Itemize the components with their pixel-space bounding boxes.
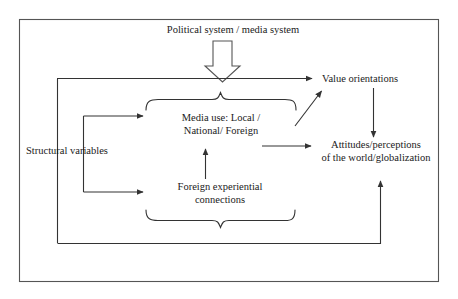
node-value-orientations: Value orientations bbox=[322, 73, 440, 86]
node-political-system-media-system: Political system / media system bbox=[148, 24, 318, 37]
political-system-block-arrow-icon bbox=[205, 41, 240, 82]
upper-brace bbox=[146, 93, 296, 111]
diagram-canvas: Political system / media system Value or… bbox=[0, 0, 458, 299]
node-media-use: Media use: Local / National/ Foreign bbox=[148, 112, 294, 137]
node-foreign-experiential-connections: Foreign experiential connections bbox=[144, 181, 296, 206]
lower-brace bbox=[146, 210, 295, 228]
node-attitudes-perceptions: Attitudes/perceptions of the world/globa… bbox=[300, 139, 452, 164]
connector-media-group-to-value-orientations bbox=[295, 91, 322, 126]
node-structural-variables: Structural variables bbox=[26, 145, 150, 158]
